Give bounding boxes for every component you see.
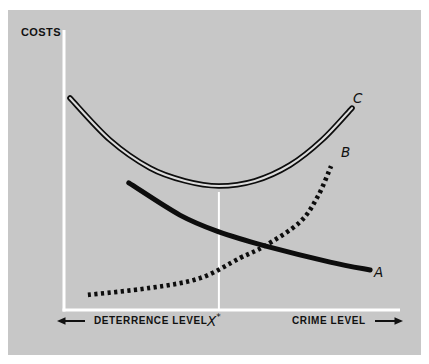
figure: COSTS DETERRENCE LEVEL X* CRIME LEVEL A …	[0, 0, 429, 364]
crime-level-label: CRIME LEVEL	[292, 315, 366, 326]
x-star-label: X*	[207, 312, 221, 329]
curve-b-label: B	[341, 144, 350, 160]
right-arrow-icon	[374, 316, 404, 326]
curve-a	[129, 183, 370, 270]
left-arrow-icon	[56, 316, 86, 326]
curve-c-label: C	[353, 90, 362, 106]
curve-c-core	[70, 98, 352, 186]
y-axis-label: COSTS	[21, 26, 61, 38]
deterrence-level-label: DETERRENCE LEVEL	[94, 315, 208, 326]
plot-svg	[0, 0, 429, 364]
x-star-superscript: *	[216, 312, 221, 322]
crime-axis-label-group: CRIME LEVEL	[292, 315, 404, 326]
deterrence-axis-label-group: DETERRENCE LEVEL	[56, 315, 208, 326]
curve-a-label: A	[374, 264, 383, 280]
x-star-base: X	[207, 313, 216, 329]
